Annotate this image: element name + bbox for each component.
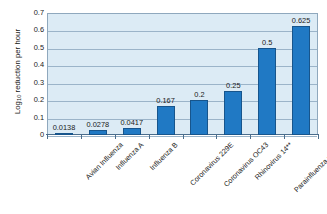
x-axis-tick-label: Parainfluenza virus 2 xyxy=(293,141,327,194)
x-axis-tick-label-text: Parainfluenza virus 2 xyxy=(293,141,327,194)
x-axis-tick-label: Influenza B xyxy=(148,141,179,172)
x-axis-tick-label-text: Influenza B xyxy=(148,141,179,172)
x-axis-tick-labels: Avian InfluenzaInfluenza AInfluenza BCor… xyxy=(0,0,327,214)
bar-chart: Log10 reduction per hour 00.10.20.30.40.… xyxy=(0,0,327,214)
